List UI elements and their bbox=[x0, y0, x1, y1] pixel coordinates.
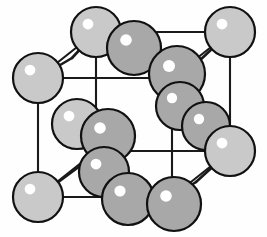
crystal-structure-figure bbox=[0, 0, 267, 237]
atom-specular-highlight-12 bbox=[25, 184, 36, 195]
atom-specular-highlight-10 bbox=[91, 159, 102, 170]
atom-corner-front-bottom-right bbox=[205, 126, 255, 176]
atom-specular-highlight-11 bbox=[217, 138, 228, 149]
atom-specular-highlight-2 bbox=[120, 34, 132, 46]
atom-sphere-13 bbox=[102, 173, 154, 225]
atom-corner-front-top-left bbox=[13, 53, 63, 103]
atom-specular-highlight-13 bbox=[114, 185, 125, 196]
atom-sphere-12 bbox=[13, 172, 63, 222]
atom-face-bottom-right bbox=[147, 177, 201, 231]
atom-specular-highlight-6 bbox=[167, 93, 177, 103]
atom-specular-highlight-9 bbox=[94, 122, 106, 134]
atom-specular-highlight-5 bbox=[163, 60, 175, 72]
atom-sphere-4 bbox=[13, 53, 63, 103]
atom-specular-highlight-14 bbox=[160, 190, 172, 202]
atom-sphere-14 bbox=[147, 177, 201, 231]
atom-specular-highlight-4 bbox=[25, 65, 36, 76]
atom-sphere-11 bbox=[205, 126, 255, 176]
atom-corner-front-bottom-left bbox=[13, 172, 63, 222]
atom-specular-highlight-8 bbox=[64, 111, 75, 122]
atom-corner-back-top-right bbox=[205, 7, 255, 57]
atom-specular-highlight-7 bbox=[194, 114, 204, 124]
lattice-diagram bbox=[0, 0, 267, 237]
atom-group bbox=[13, 7, 255, 231]
atom-sphere-3 bbox=[205, 7, 255, 57]
atom-specular-highlight-3 bbox=[217, 19, 228, 30]
atom-face-bottom-left bbox=[102, 173, 154, 225]
atom-specular-highlight-1 bbox=[83, 19, 94, 30]
